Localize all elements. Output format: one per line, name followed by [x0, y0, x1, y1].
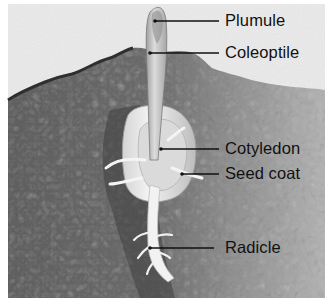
- label-seed-coat: Seed coat: [225, 165, 300, 182]
- label-coleoptile: Coleoptile: [225, 44, 299, 61]
- seed-germination-diagram: Plumule Coleoptile Cotyledon Seed coat R…: [0, 0, 328, 302]
- label-radicle: Radicle: [225, 239, 281, 256]
- label-cotyledon: Cotyledon: [225, 140, 300, 157]
- label-plumule: Plumule: [225, 12, 285, 29]
